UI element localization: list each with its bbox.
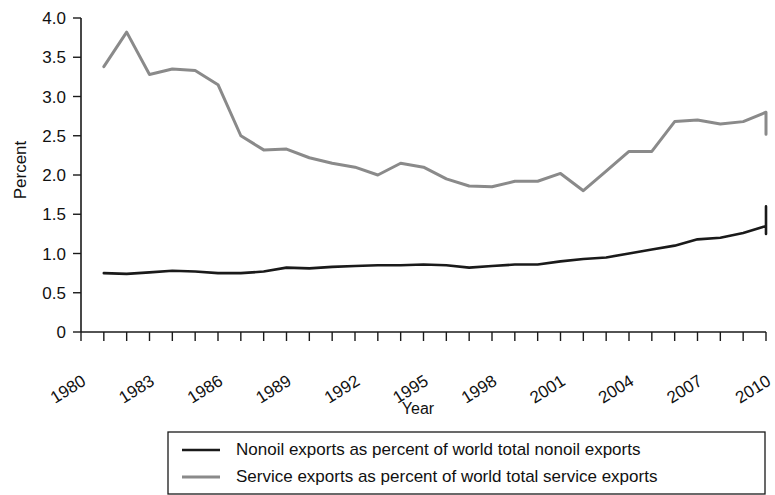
y-tick-label: 3.0 bbox=[42, 88, 66, 107]
y-tick-label: 2.0 bbox=[42, 166, 66, 185]
y-tick-label: 4.0 bbox=[42, 9, 66, 28]
x-tick-label: 1989 bbox=[252, 371, 294, 407]
data-series bbox=[104, 32, 766, 274]
legend-label-1: Service exports as percent of world tota… bbox=[236, 467, 657, 486]
x-tick-label: 1980 bbox=[47, 371, 89, 407]
x-tick-label: 2004 bbox=[595, 371, 637, 407]
x-tick-label: 2010 bbox=[732, 371, 774, 407]
x-tick-label: 2007 bbox=[663, 371, 705, 407]
chart-legend: Nonoil exports as percent of world total… bbox=[168, 432, 765, 494]
y-axis-tick-labels: 00.51.01.52.02.53.03.54.0 bbox=[42, 9, 66, 342]
x-axis-label: Year bbox=[402, 400, 435, 417]
x-tick-label: 1998 bbox=[458, 371, 500, 407]
axis-lines bbox=[81, 18, 766, 332]
line-chart: 00.51.01.52.02.53.03.54.0 19801983198619… bbox=[0, 0, 775, 495]
chart-figure: 00.51.01.52.02.53.03.54.0 19801983198619… bbox=[0, 0, 775, 495]
x-tick-label: 1983 bbox=[115, 371, 157, 407]
x-tick-label: 1992 bbox=[321, 371, 363, 407]
series-line-1 bbox=[104, 32, 766, 191]
y-tick-label: 3.5 bbox=[42, 48, 66, 67]
y-tick-label: 0 bbox=[57, 323, 66, 342]
x-tick-label: 2001 bbox=[526, 371, 568, 407]
legend-label-0: Nonoil exports as percent of world total… bbox=[236, 440, 640, 459]
x-axis-ticks bbox=[81, 332, 766, 341]
y-axis-label: Percent bbox=[11, 140, 30, 199]
x-tick-label: 1986 bbox=[184, 371, 226, 407]
y-tick-label: 1.0 bbox=[42, 245, 66, 264]
y-tick-label: 2.5 bbox=[42, 127, 66, 146]
y-tick-label: 1.5 bbox=[42, 205, 66, 224]
y-tick-label: 0.5 bbox=[42, 284, 66, 303]
y-axis-ticks bbox=[73, 18, 81, 332]
series-line-0 bbox=[104, 206, 766, 274]
